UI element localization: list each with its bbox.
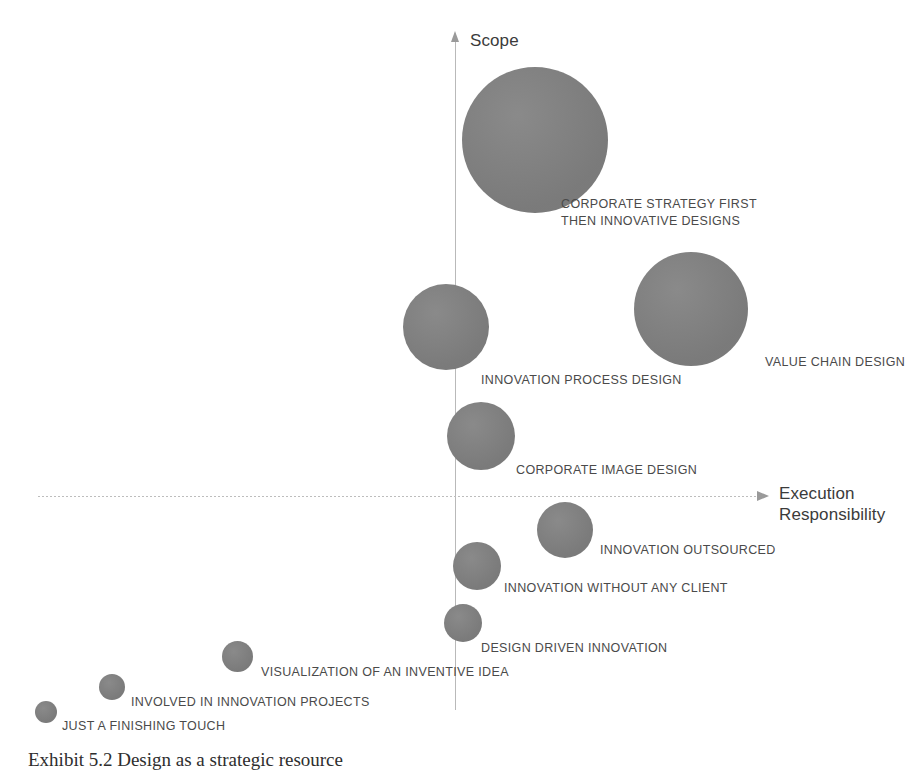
figure-caption: Exhibit 5.2 Design as a strategic resour… [28,748,728,771]
bubble-label: INNOVATION WITHOUT ANY CLIENT [504,580,728,597]
bubble-label: JUST A FINISHING TOUCH [62,718,225,735]
bubble-label: VALUE CHAIN DESIGN [765,354,905,371]
bubble-point [634,252,748,366]
bubble-point [99,674,125,700]
bubble-point [403,284,489,370]
bubble-label: VISUALIZATION OF AN INVENTIVE IDEA [261,664,509,681]
bubble-point [447,402,515,470]
x-axis-title-line-2: Responsibility [779,504,885,525]
bubble-point [453,542,501,590]
bubble-point [462,67,608,213]
bubble-label: CORPORATE IMAGE DESIGN [516,462,697,479]
bubble-point [537,502,593,558]
bubble-point [222,641,253,672]
bubble-label: INNOVATION OUTSOURCED [600,542,776,559]
x-axis-line [38,496,760,497]
bubble-label: DESIGN DRIVEN INNOVATION [481,640,667,657]
bubble-point [35,701,57,723]
x-axis-title: Execution Responsibility [779,483,885,525]
y-axis-arrowhead-icon [451,31,459,42]
bubble-label: INNOVATION PROCESS DESIGN [481,372,682,389]
bubble-label: CORPORATE STRATEGY FIRST THEN INNOVATIVE… [561,196,757,229]
bubble-point [444,604,482,642]
bubble-label: INVOLVED IN INNOVATION PROJECTS [131,694,370,711]
x-axis-arrowhead-icon [757,491,769,501]
y-axis-title: Scope [470,30,519,51]
x-axis-title-line-1: Execution [779,484,855,503]
